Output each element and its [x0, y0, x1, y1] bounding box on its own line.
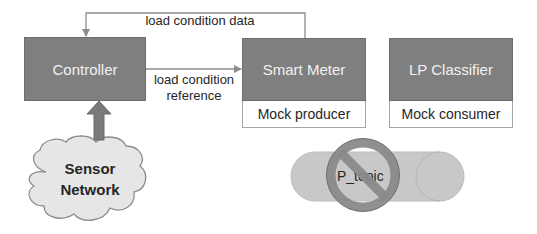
prohibited-icon: [0, 0, 537, 234]
diagram-canvas: Controller Smart Meter Mock producer LP …: [0, 0, 537, 234]
